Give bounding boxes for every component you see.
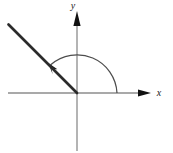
x-axis-label: x xyxy=(156,87,162,98)
coordinate-plane-figure: x y xyxy=(0,0,173,153)
y-axis-arrowhead-icon xyxy=(73,11,80,26)
figure-container: x y xyxy=(0,0,173,153)
angle-arc xyxy=(51,55,117,93)
y-axis-label: y xyxy=(70,0,76,11)
terminal-ray xyxy=(9,25,78,94)
x-axis-arrowhead-icon xyxy=(138,89,151,96)
